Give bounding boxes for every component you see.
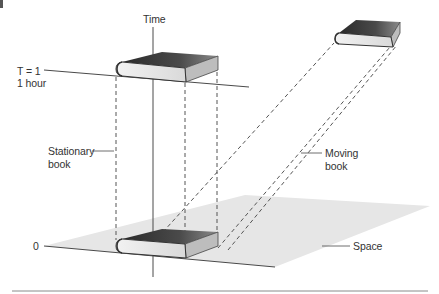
stationary-book-label: book [48, 158, 70, 170]
t1-label: T = 1 [17, 65, 41, 77]
space-label: Space [353, 240, 382, 252]
moving-label: Moving [325, 147, 358, 159]
origin-label: 0 [33, 240, 39, 252]
spacetime-diagram: Time T = 1 1 hour Stationary book Moving… [0, 0, 439, 294]
moving-book-label: book [325, 160, 347, 172]
t1-hour-label: 1 hour [17, 77, 46, 89]
stationary-label: Stationary [48, 145, 94, 157]
time-axis-label: Time [143, 13, 166, 25]
book-icon-moving [335, 20, 400, 47]
panel-marker [0, 0, 3, 8]
space-plane [44, 195, 430, 267]
